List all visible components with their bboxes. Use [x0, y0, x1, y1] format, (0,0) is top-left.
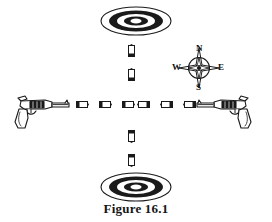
bullet-h-4 — [137, 101, 150, 108]
bullet-h-5 — [160, 101, 173, 108]
bullet-h-1 — [76, 101, 89, 108]
bullet-h-3 — [122, 101, 135, 108]
compass-label-south: S — [196, 83, 201, 92]
bullet-v-1 — [128, 44, 135, 57]
compass-rose-icon: N S W E — [172, 44, 226, 92]
target-top — [100, 6, 172, 36]
bullet-h-6 — [183, 101, 196, 108]
pistol-right — [192, 88, 254, 130]
compass-label-west: W — [172, 63, 181, 72]
target-bottom — [100, 172, 172, 202]
pistol-left — [12, 88, 74, 130]
compass-label-north: N — [196, 44, 203, 53]
bullet-v-2 — [128, 68, 135, 81]
compass-label-east: E — [218, 63, 224, 72]
figure-caption: Figure 16.1 — [0, 201, 272, 217]
figure-16-1: N S W E Figure 16.1 — [0, 0, 272, 222]
bullet-v-4 — [128, 154, 135, 167]
bullet-v-3 — [128, 130, 135, 143]
bullet-h-2 — [99, 101, 112, 108]
